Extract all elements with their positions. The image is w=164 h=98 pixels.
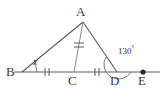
segment-ad <box>83 22 117 72</box>
angle-value-text: 130 <box>118 46 132 56</box>
vertex-label-a: A <box>76 5 85 18</box>
geometry-figure: A B C D E x 130° <box>0 0 164 98</box>
angle-label-130: 130° <box>118 45 134 56</box>
vertex-label-b: B <box>6 65 15 78</box>
angle-label-x: x <box>33 57 37 67</box>
segment-ab <box>22 22 83 72</box>
vertex-label-d: D <box>110 74 119 87</box>
vertex-label-e: E <box>138 74 146 87</box>
vertex-label-c: C <box>68 74 77 87</box>
degree-symbol: ° <box>132 44 135 52</box>
